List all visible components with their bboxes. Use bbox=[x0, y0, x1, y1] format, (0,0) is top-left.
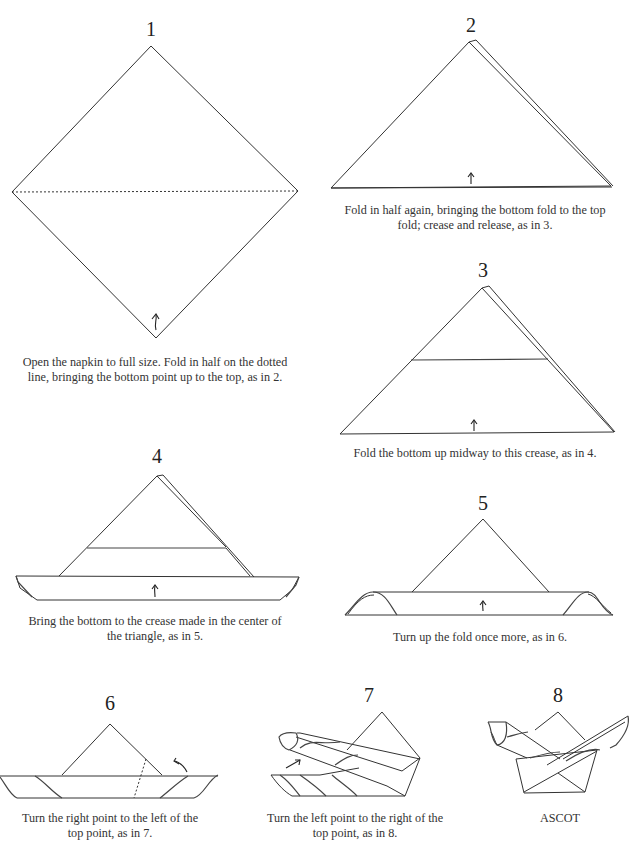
top-triangle bbox=[62, 724, 162, 775]
band-stripe bbox=[280, 775, 300, 796]
triangle-left-edge bbox=[59, 476, 226, 576]
diagonal-fold bbox=[558, 773, 585, 792]
dotted-fold-line bbox=[12, 191, 298, 192]
crease-line bbox=[411, 359, 548, 360]
step-4-caption: Bring the bottom to the crease made in t… bbox=[0, 614, 310, 644]
left-rolled-tip bbox=[488, 722, 507, 745]
up-arrow-icon bbox=[480, 601, 486, 611]
caption-line: Fold in half again, bringing the bottom … bbox=[320, 203, 630, 218]
triangle-right-edge bbox=[226, 548, 250, 576]
up-arrow-icon bbox=[468, 173, 474, 184]
rolled-tip bbox=[279, 733, 298, 750]
triangle-base bbox=[331, 187, 612, 188]
step-2-diagram bbox=[331, 40, 613, 188]
up-arrow-icon bbox=[152, 585, 158, 597]
caption-line: Turn the left point to the right of the bbox=[250, 811, 460, 826]
step-number: 3 bbox=[463, 259, 503, 282]
caption-line: the triangle, as in 5. bbox=[0, 629, 310, 644]
left-end bbox=[0, 777, 17, 798]
dotted-fold-line bbox=[134, 759, 146, 798]
step-number: 7 bbox=[349, 684, 389, 707]
step-6-diagram bbox=[0, 724, 218, 798]
band-stripe bbox=[160, 776, 188, 798]
step-number: 1 bbox=[131, 18, 171, 41]
caption-line: ASCOT bbox=[500, 811, 620, 826]
step-7-diagram bbox=[271, 712, 420, 796]
right-flap-upper bbox=[547, 716, 628, 765]
step-3-diagram bbox=[340, 286, 615, 434]
caption-line: line, bringing the bottom point up to th… bbox=[0, 370, 310, 385]
step-5-caption: Turn up the fold once more, as in 6. bbox=[330, 630, 630, 645]
step-3-caption: Fold the bottom up midway to this crease… bbox=[320, 446, 630, 461]
top-square bbox=[347, 712, 420, 796]
top-square bbox=[535, 712, 585, 740]
caption-line: Turn up the fold once more, as in 6. bbox=[330, 630, 630, 645]
step-4-diagram bbox=[16, 475, 299, 600]
right-roll-inner bbox=[588, 594, 611, 613]
arrow-icon bbox=[286, 760, 300, 768]
caption-line: top point, as in 8. bbox=[250, 826, 460, 841]
step-8-caption: ASCOT bbox=[500, 811, 620, 826]
curved-arrow-icon bbox=[174, 758, 187, 772]
folded-triangle bbox=[331, 42, 611, 188]
flap-stripe bbox=[335, 755, 358, 765]
folding-diagrams bbox=[0, 0, 639, 854]
caption-line: Bring the bottom to the crease made in t… bbox=[0, 614, 310, 629]
caption-line: fold; crease and release, as in 3. bbox=[320, 218, 630, 233]
step-number: 5 bbox=[463, 492, 503, 515]
caption-line: top point, as in 7. bbox=[0, 826, 220, 841]
step-number: 2 bbox=[451, 14, 491, 37]
band-stripe bbox=[332, 775, 357, 796]
band-stripe bbox=[300, 775, 326, 796]
band-left-edge bbox=[16, 576, 32, 597]
top-triangle bbox=[412, 519, 549, 592]
folded-triangle bbox=[340, 288, 614, 434]
step-7-caption: Turn the left point to the right of the … bbox=[250, 811, 460, 841]
step-1-diagram bbox=[12, 46, 298, 338]
back-layer-edge bbox=[469, 40, 613, 186]
step-1-caption: Open the napkin to full size. Fold in ha… bbox=[0, 355, 310, 385]
step-5-diagram bbox=[345, 519, 613, 615]
up-arrow-icon bbox=[471, 420, 477, 431]
right-roll bbox=[563, 592, 613, 615]
step-number: 8 bbox=[538, 684, 578, 707]
caption-line: Turn the right point to the left of the bbox=[0, 811, 220, 826]
caption-line: Fold the bottom up midway to this crease… bbox=[320, 446, 630, 461]
up-arrow-icon bbox=[152, 314, 159, 330]
step-number: 4 bbox=[137, 445, 177, 468]
right-flap-lower bbox=[563, 722, 625, 759]
step-2-caption: Fold in half again, bringing the bottom … bbox=[320, 203, 630, 233]
band-stripe bbox=[35, 776, 62, 798]
step-6-caption: Turn the right point to the left of the … bbox=[0, 811, 220, 841]
right-end bbox=[194, 775, 218, 798]
band-top bbox=[271, 768, 359, 775]
step-8-diagram bbox=[488, 712, 628, 793]
napkin-diamond bbox=[12, 46, 298, 338]
step-number: 6 bbox=[90, 692, 130, 715]
caption-line: Open the napkin to full size. Fold in ha… bbox=[0, 355, 310, 370]
